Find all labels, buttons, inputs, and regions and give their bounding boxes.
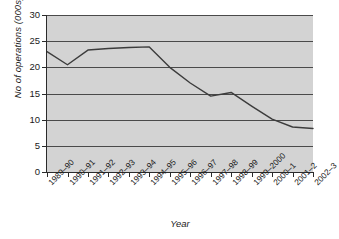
- y-tick-label-25: 25: [0, 36, 40, 46]
- x-axis-title: Year: [47, 218, 313, 229]
- y-tick-label-5: 5: [0, 141, 40, 151]
- x-tick-mark-10: [252, 173, 253, 177]
- y-tick-label-20: 20: [0, 62, 40, 72]
- x-tick-mark-1: [68, 173, 69, 177]
- y-tick-mark-15: [42, 94, 47, 95]
- y-tick-mark-30: [42, 15, 47, 16]
- y-tick-mark-20: [42, 67, 47, 68]
- y-tick-label-15: 15: [0, 89, 40, 99]
- y-tick-mark-5: [42, 146, 47, 147]
- plot-area: [47, 15, 313, 172]
- y-tick-label-10: 10: [0, 115, 40, 125]
- x-tick-mark-8: [211, 173, 212, 177]
- y-tick-mark-10: [42, 120, 47, 121]
- y-tick-label-0: 0: [0, 167, 40, 177]
- x-tick-mark-12: [293, 173, 294, 177]
- data-series-line: [47, 15, 313, 172]
- y-tick-label-30: 30: [0, 10, 40, 20]
- y-tick-mark-25: [42, 41, 47, 42]
